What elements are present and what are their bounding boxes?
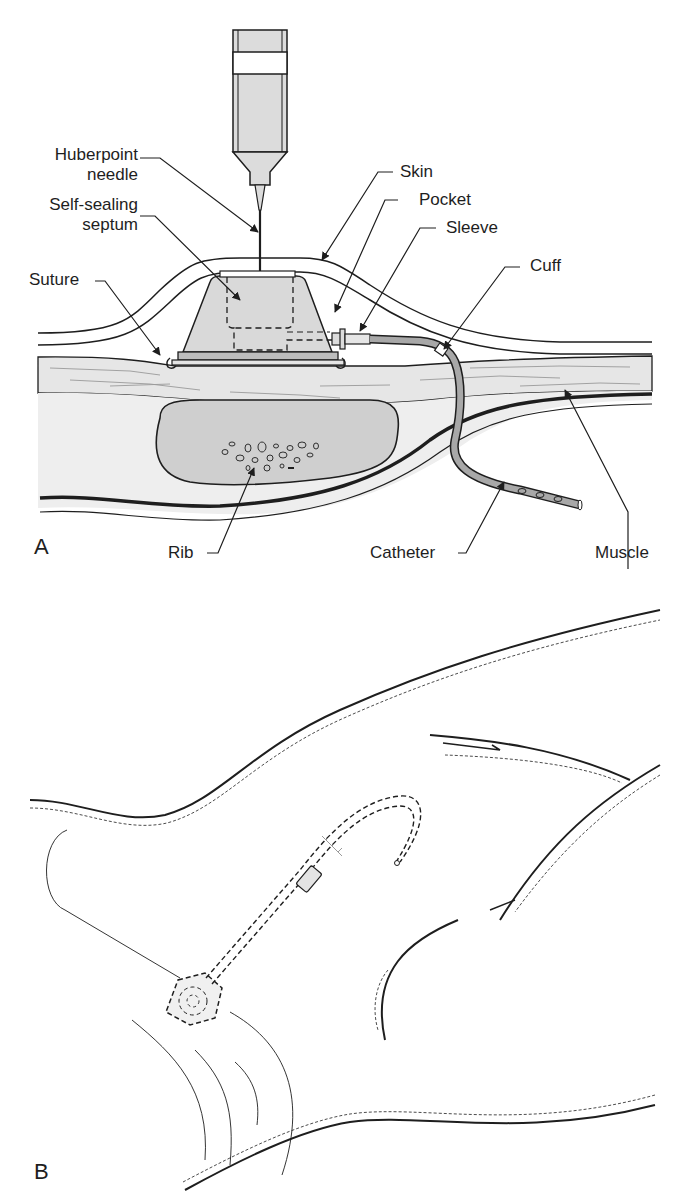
label-pocket: Pocket bbox=[419, 190, 471, 210]
body-outline bbox=[30, 610, 660, 1190]
panel-letter-a: A bbox=[34, 534, 49, 560]
tunneled-catheter bbox=[206, 796, 421, 984]
panel-a-cross-section: Huberpoint needle Self-sealing septum Su… bbox=[0, 0, 686, 600]
syringe bbox=[233, 30, 287, 210]
label-cuff: Cuff bbox=[530, 256, 561, 276]
panel-letter-b: B bbox=[34, 1159, 49, 1185]
label-septum-line2: septum bbox=[24, 215, 138, 235]
label-catheter: Catheter bbox=[370, 543, 435, 563]
subcutaneous-port bbox=[166, 973, 222, 1025]
placement-illustration bbox=[0, 600, 686, 1199]
label-huberpoint-line1: Huberpoint bbox=[34, 145, 138, 165]
label-septum-line1: Self-sealing bbox=[24, 195, 138, 215]
cross-section-illustration bbox=[0, 0, 686, 600]
rib bbox=[156, 400, 398, 485]
label-rib: Rib bbox=[168, 543, 194, 563]
implanted-port bbox=[172, 271, 344, 365]
label-sleeve: Sleeve bbox=[446, 218, 498, 238]
label-skin: Skin bbox=[400, 162, 433, 182]
label-muscle: Muscle bbox=[595, 543, 649, 563]
catheter-cuff bbox=[296, 865, 322, 892]
label-suture: Suture bbox=[29, 270, 79, 290]
label-huberpoint-line2: needle bbox=[34, 165, 138, 185]
catheter-sleeve bbox=[332, 329, 370, 349]
panel-b-placement: B bbox=[0, 600, 686, 1199]
